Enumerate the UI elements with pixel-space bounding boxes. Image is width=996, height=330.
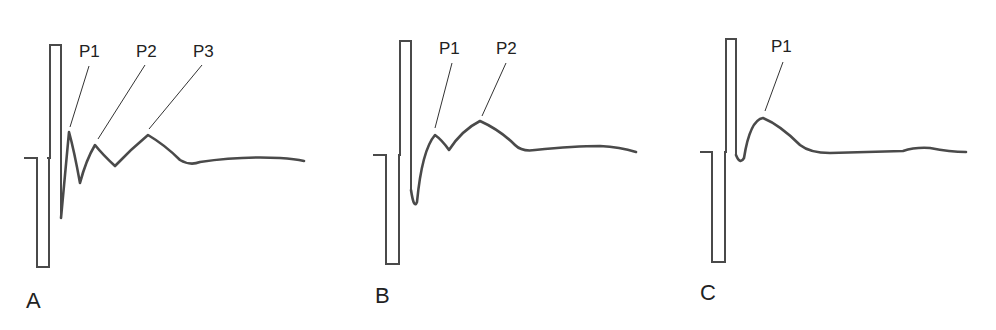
panel-c-response-trace — [736, 118, 966, 161]
panel-c-p1-leader — [765, 62, 783, 111]
panel-b-response-trace — [411, 121, 636, 204]
panel-a-label: A — [26, 290, 41, 312]
panel-b-label: B — [375, 285, 390, 307]
panel-c-waveform — [700, 39, 966, 262]
panel-b-p1-leader — [435, 63, 452, 128]
panel-a-p3-label: P3 — [193, 43, 214, 60]
panel-b-p1-label: P1 — [439, 40, 460, 57]
panel-c-p1-label: P1 — [771, 38, 792, 55]
panel-a-p2-label: P2 — [136, 43, 157, 60]
panel-a-p2-leader — [98, 65, 145, 139]
panel-c-label: C — [700, 282, 716, 304]
panel-a-response-trace — [61, 132, 304, 218]
panel-a-p3-leader — [149, 65, 202, 129]
panel-b-p2-leader — [482, 63, 506, 116]
panel-a-calibration-pulse — [24, 45, 61, 267]
panel-a-p1-label: P1 — [79, 43, 100, 60]
panel-c-calibration-pulse — [700, 39, 736, 262]
panel-a-p1-leader — [70, 66, 89, 127]
panel-b-waveform — [373, 41, 636, 264]
panel-b-calibration-pulse — [373, 41, 411, 264]
panel-b-p2-label: P2 — [496, 40, 517, 57]
panel-a-waveform — [24, 45, 304, 267]
